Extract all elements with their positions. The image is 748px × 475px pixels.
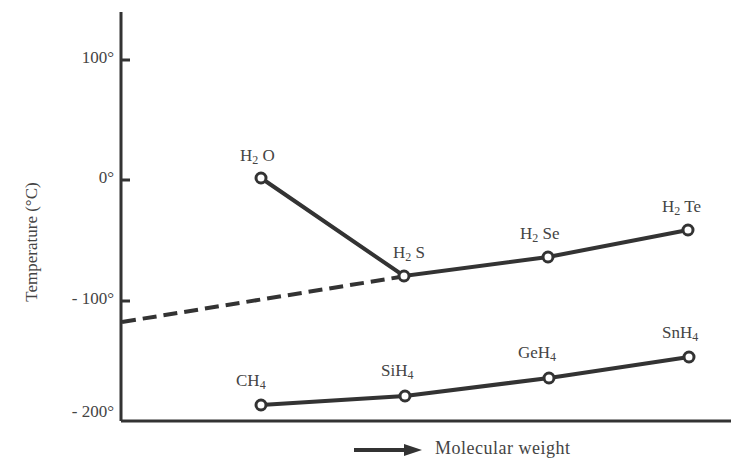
y-tick-label: - 200° <box>14 402 114 422</box>
series-group14-line <box>261 357 689 405</box>
y-tick-label: 100° <box>14 48 114 68</box>
label-h2se: H2 Se <box>520 224 560 246</box>
series-group16-line <box>261 178 688 276</box>
label-h2te: H2 Te <box>662 197 701 219</box>
point-h2se <box>543 252 553 262</box>
label-sih4: SiH4 <box>381 361 413 383</box>
arrow-right-icon <box>404 444 422 456</box>
x-axis-label: Molecular weight <box>435 438 570 459</box>
y-axis-label: Temperature (°C) <box>22 172 42 312</box>
point-geh4 <box>544 373 554 383</box>
point-h2o <box>256 173 266 183</box>
dashed-extrapolation-line <box>122 277 400 322</box>
point-h2te <box>683 225 693 235</box>
point-h2s <box>399 271 409 281</box>
point-ch4 <box>256 400 266 410</box>
label-snh4: SnH4 <box>662 323 698 345</box>
point-sih4 <box>400 391 410 401</box>
label-geh4: GeH4 <box>518 343 556 365</box>
point-snh4 <box>684 352 694 362</box>
label-ch4: CH4 <box>236 371 266 393</box>
label-h2o: H2 O <box>240 146 275 168</box>
label-h2s: H2 S <box>393 243 425 265</box>
